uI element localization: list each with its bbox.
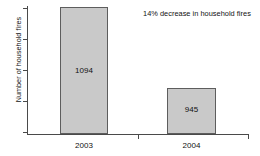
y-axis-line: [27, 6, 28, 135]
x-axis-tick: [138, 135, 139, 139]
bar-value-2003: 1094: [61, 66, 107, 75]
bar-2003: 1094: [60, 7, 108, 134]
y-axis-tick: [23, 39, 27, 40]
bar-chart: Number of household fires 1094 945 2003 …: [0, 0, 260, 156]
bar-value-2004: 945: [168, 105, 215, 114]
x-axis-tick: [248, 135, 249, 139]
x-axis-label-2003: 2003: [60, 141, 108, 150]
y-axis-tick: [23, 70, 27, 71]
chart-annotation: 14% decrease in household fires: [143, 9, 251, 18]
y-axis-tick: [23, 8, 27, 9]
y-axis-tick: [23, 132, 27, 133]
y-axis-tick: [23, 101, 27, 102]
bar-2004: 945: [167, 88, 216, 134]
y-axis-title: Number of household fires: [14, 0, 23, 125]
x-axis-label-2004: 2004: [167, 141, 216, 150]
